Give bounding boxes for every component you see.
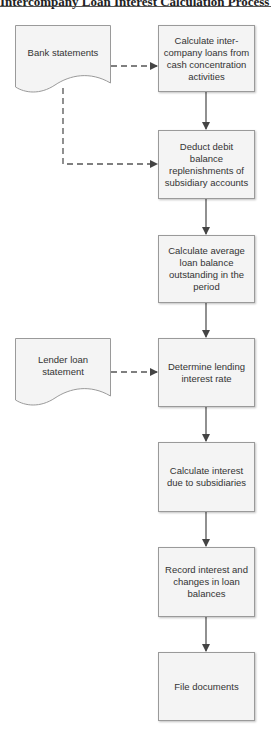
document-label: Bank statements <box>15 47 111 59</box>
step-label: Calculate inter-company loans from cash … <box>159 35 254 83</box>
step-label: Calculate average loan balance outstandi… <box>159 245 254 293</box>
process-step-determine-lending-rate: Determine lending interest rate <box>158 338 255 407</box>
step-label: Record interest and changes in loan bala… <box>159 564 254 600</box>
document-label: Lender loan statement <box>15 354 111 378</box>
process-step-calculate-interest: Calculate interest due to subsidiaries <box>158 442 255 512</box>
process-step-calculate-average-loan-balance: Calculate average loan balance outstandi… <box>158 235 255 303</box>
process-step-file-documents: File documents <box>158 652 255 721</box>
process-step-record-interest: Record interest and changes in loan bala… <box>158 547 255 617</box>
process-step-deduct-debit-balance: Deduct debit balance replenishments of s… <box>158 130 255 199</box>
document-bank-statements: Bank statements <box>15 25 111 95</box>
step-label: Calculate interest due to subsidiaries <box>159 465 254 489</box>
process-step-calculate-intercompany-loans: Calculate inter-company loans from cash … <box>158 25 255 92</box>
document-lender-loan-statement: Lender loan statement <box>15 338 111 408</box>
step-label: File documents <box>171 681 241 693</box>
step-label: Deduct debit balance replenishments of s… <box>159 141 254 189</box>
step-label: Determine lending interest rate <box>159 361 254 385</box>
document-shape-icon <box>15 25 111 95</box>
dashed-arrow-bank-step2 <box>63 88 157 164</box>
